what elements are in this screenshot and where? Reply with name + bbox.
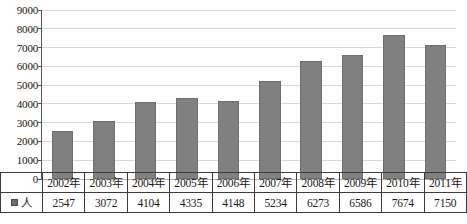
- plot-area: [41, 10, 456, 179]
- year-cell-3: 2005年: [170, 173, 212, 193]
- bar-2005年: [176, 98, 198, 179]
- y-tick-label-6000: 6000: [17, 61, 38, 72]
- value-cell-4: 4148: [212, 193, 254, 213]
- value-cell-5: 5234: [254, 193, 296, 213]
- bar-2008年: [300, 61, 322, 179]
- table-corner-blank: [1, 173, 43, 193]
- chart-figure: 9000800070006000500040003000200010000 20…: [0, 0, 467, 224]
- bar-slot: [166, 10, 207, 179]
- value-cell-7: 6586: [339, 193, 381, 213]
- y-tick-label-1000: 1000: [17, 155, 38, 166]
- bars-layer: [42, 10, 456, 179]
- y-tick-label-3000: 3000: [17, 117, 38, 128]
- bar-slot: [415, 10, 456, 179]
- bar-2011年: [425, 45, 447, 179]
- year-cell-2: 2004年: [127, 173, 169, 193]
- data-table-region: 2002年2003年2004年2005年2006年2007年2008年2009年…: [0, 172, 467, 216]
- value-cell-3: 4335: [170, 193, 212, 213]
- bar-slot: [208, 10, 249, 179]
- table-row-years: 2002年2003年2004年2005年2006年2007年2008年2009年…: [1, 173, 467, 193]
- data-table: 2002年2003年2004年2005年2006年2007年2008年2009年…: [0, 172, 467, 213]
- table-row-values: 人 25473072410443354148523462736586767471…: [1, 193, 467, 213]
- value-cell-9: 7150: [424, 193, 466, 213]
- bar-slot: [125, 10, 166, 179]
- bar-slot: [42, 10, 83, 179]
- y-tick-label-4000: 4000: [17, 98, 38, 109]
- value-cell-8: 7674: [382, 193, 424, 213]
- year-cell-0: 2002年: [43, 173, 85, 193]
- bar-slot: [332, 10, 373, 179]
- year-cell-6: 2008年: [297, 173, 339, 193]
- bar-2007年: [259, 81, 281, 179]
- bar-slot: [290, 10, 331, 179]
- value-cell-0: 2547: [43, 193, 85, 213]
- bar-2009年: [342, 55, 364, 179]
- y-tick-label-8000: 8000: [17, 23, 38, 34]
- year-cell-8: 2010年: [382, 173, 424, 193]
- y-tick-label-2000: 2000: [17, 136, 38, 147]
- value-cell-1: 3072: [85, 193, 127, 213]
- y-axis: 9000800070006000500040003000200010000: [0, 0, 38, 184]
- year-cell-5: 2007年: [254, 173, 296, 193]
- bar-2010年: [383, 35, 405, 179]
- square-swatch-icon: [11, 199, 18, 206]
- bar-slot: [373, 10, 414, 179]
- bar-2006年: [218, 101, 240, 179]
- value-cell-6: 6273: [297, 193, 339, 213]
- year-cell-9: 2011年: [424, 173, 466, 193]
- legend-cell: 人: [1, 193, 43, 213]
- chart-plot-region: 9000800070006000500040003000200010000: [0, 0, 467, 184]
- y-tick-label-5000: 5000: [17, 80, 38, 91]
- y-tick-label-9000: 9000: [17, 5, 38, 16]
- y-tick-label-7000: 7000: [17, 42, 38, 53]
- bar-2003年: [93, 121, 115, 179]
- year-cell-7: 2009年: [339, 173, 381, 193]
- bar-slot: [83, 10, 124, 179]
- bar-2004年: [135, 102, 157, 179]
- legend-label: 人: [21, 197, 32, 209]
- year-cell-4: 2006年: [212, 173, 254, 193]
- bar-slot: [249, 10, 290, 179]
- value-cell-2: 4104: [127, 193, 169, 213]
- year-cell-1: 2003年: [85, 173, 127, 193]
